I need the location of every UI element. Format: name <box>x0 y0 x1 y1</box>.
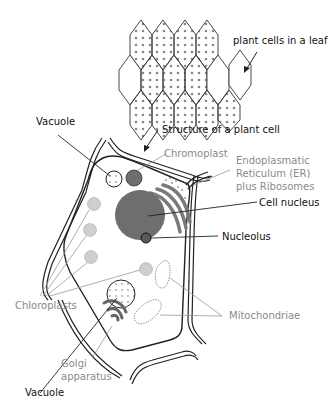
label-er-line2: Reticulum (ER) <box>236 168 310 180</box>
label-vacuole-bottom: Vacuole <box>25 387 64 399</box>
label-golgi-line1: Golgi <box>61 358 87 370</box>
leaf-cells <box>119 20 251 140</box>
nucleolus <box>141 233 151 243</box>
label-golgi-line2: apparatus <box>61 371 112 383</box>
label-er-line1: Endoplasmatic <box>236 155 310 167</box>
label-mitochondriae: Mitochondriae <box>229 310 300 322</box>
vacuole-top <box>106 171 122 187</box>
label-vacuole-top: Vacuole <box>36 116 75 128</box>
label-chloroplasts: Chloroplasts <box>15 300 77 312</box>
chromoplast <box>126 170 142 186</box>
label-cell-nucleus: Cell nucleus <box>259 197 320 209</box>
label-chromoplast: Chromoplast <box>164 148 228 160</box>
label-plant-cells-in-leaf: plant cells in a leaf <box>233 35 327 47</box>
label-structure-title: Structure of a plant cell <box>162 124 280 136</box>
label-er-line3: plus Ribosomes <box>236 181 314 193</box>
label-nucleolus: Nucleolus <box>222 231 271 243</box>
